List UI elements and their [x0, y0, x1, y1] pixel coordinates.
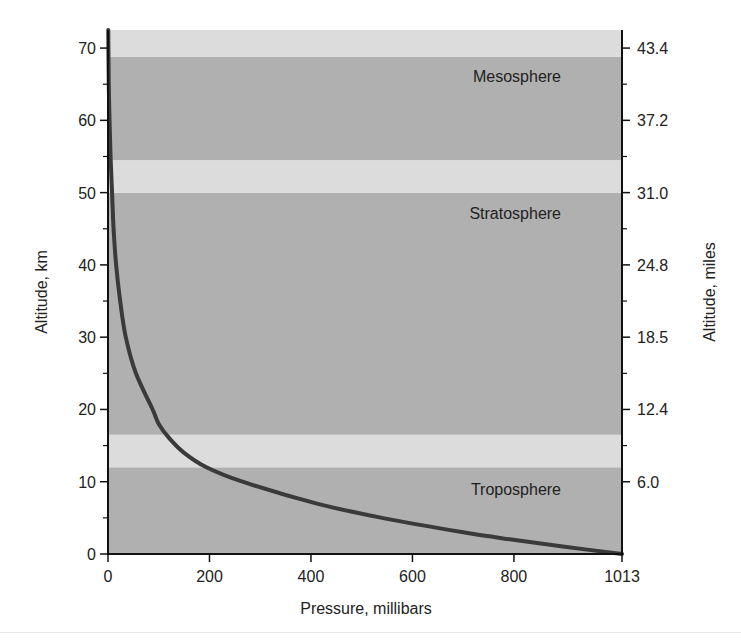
bottom-divider	[0, 632, 741, 633]
left-tick-label: 60	[78, 112, 96, 129]
left-tick-label: 0	[87, 546, 96, 563]
y-axis-title-left: Altitude, km	[33, 250, 50, 334]
left-tick-label: 20	[78, 401, 96, 418]
left-tick-label: 30	[78, 329, 96, 346]
right-axis-ticks: 6.012.418.524.831.037.243.4	[622, 40, 668, 491]
left-tick-label: 40	[78, 257, 96, 274]
x-axis-title: Pressure, millibars	[300, 600, 432, 617]
y-axis-title-right: Altitude, miles	[701, 242, 718, 342]
band-tropopause	[108, 435, 622, 468]
bottom-tick-label: 400	[298, 568, 325, 585]
right-tick-label: 37.2	[637, 112, 668, 129]
layer-label-troposphere: Troposphere	[471, 481, 561, 498]
bottom-tick-label: 0	[104, 568, 113, 585]
bottom-tick-label: 800	[501, 568, 528, 585]
left-tick-label: 70	[78, 40, 96, 57]
right-tick-label: 24.8	[637, 257, 668, 274]
right-tick-label: 18.5	[637, 329, 668, 346]
left-axis-ticks: 010203040506070	[78, 40, 108, 563]
bottom-tick-label: 600	[399, 568, 426, 585]
right-tick-label: 31.0	[637, 185, 668, 202]
bottom-tick-label: 200	[196, 568, 223, 585]
band-stratosphere	[108, 193, 622, 435]
layer-label-mesosphere: Mesosphere	[473, 68, 561, 85]
pressure-altitude-chart: Mesosphere Stratosphere Troposphere 0102…	[0, 0, 741, 644]
atmosphere-bands	[108, 30, 622, 554]
right-tick-label: 43.4	[637, 40, 668, 57]
bottom-tick-label: 1013	[604, 568, 640, 585]
band-stratopause	[108, 160, 622, 193]
right-tick-label: 12.4	[637, 401, 668, 418]
band-upper	[108, 30, 622, 57]
left-tick-label: 10	[78, 474, 96, 491]
left-tick-label: 50	[78, 185, 96, 202]
layer-label-stratosphere: Stratosphere	[469, 205, 561, 222]
right-tick-label: 6.0	[637, 474, 659, 491]
bottom-axis-ticks: 02004006008001013	[104, 554, 640, 585]
